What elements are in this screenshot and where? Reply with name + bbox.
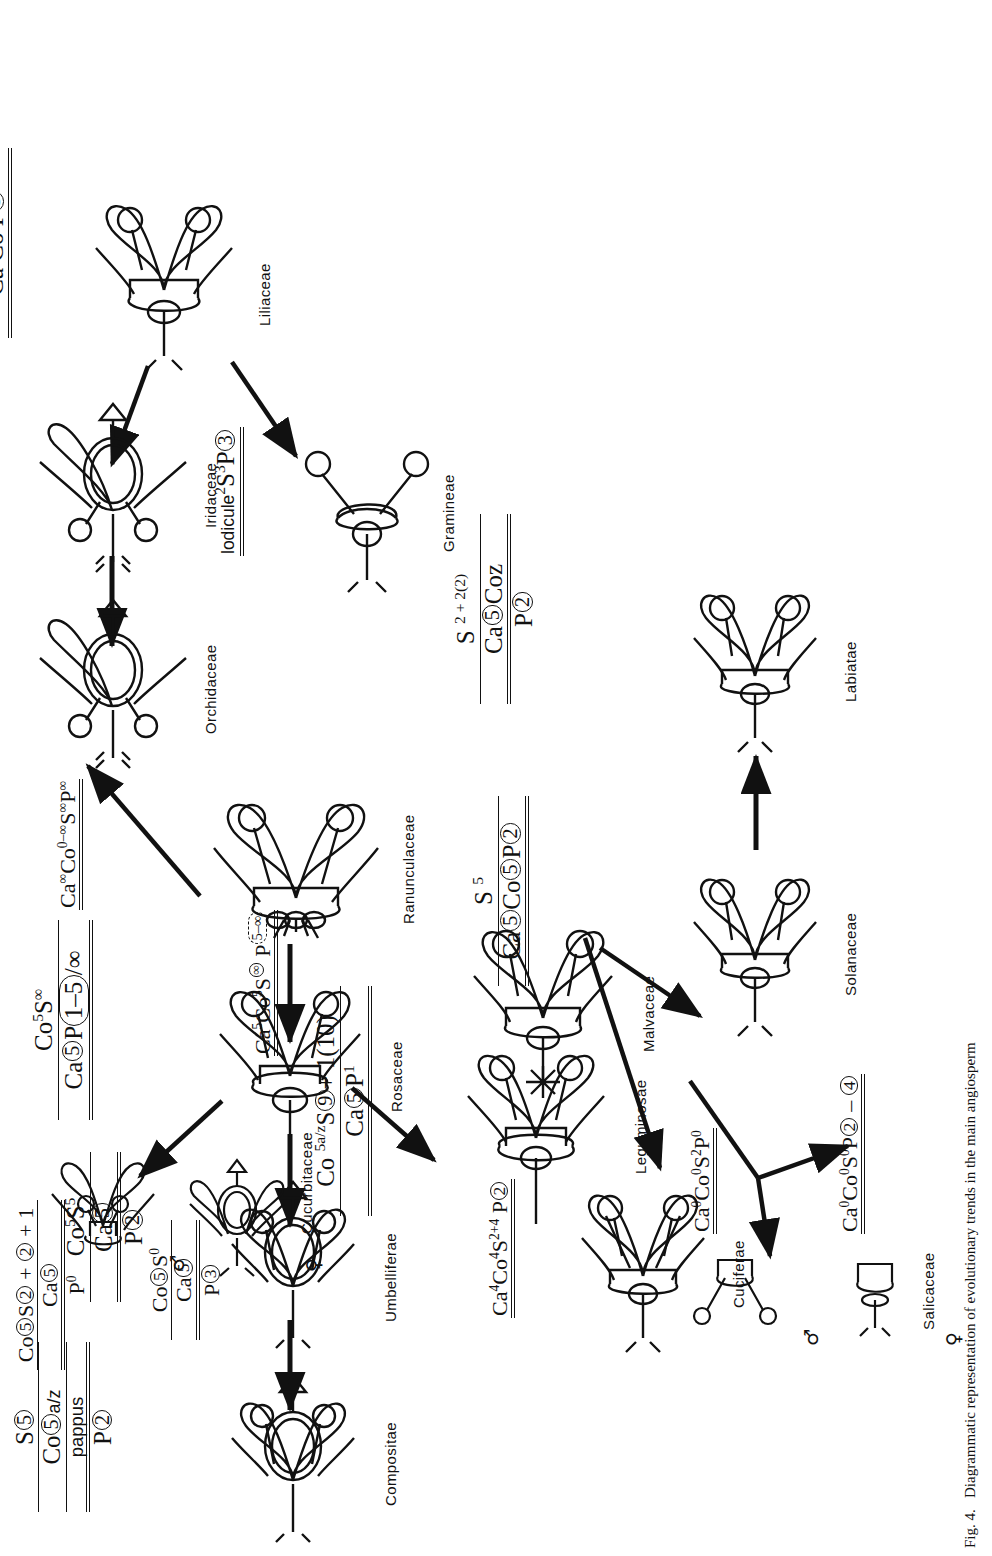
formula-line: Co5S2 + 2 + 1 [14,1200,38,1370]
male-symbol-salicaceae: ♂ [800,1329,822,1346]
formula-line: P3 [0,382,4,542]
node-salicaceae-female [820,1224,930,1334]
flower-diagram-orchidaceae [18,576,208,766]
family-label-labiatae: Labiatae [842,641,859,702]
formula-line: Ca∞Co0–∞S∞P∞ [56,779,83,910]
formula-leguminosae: Co 5a/zS9+ 1(10) Ca5P1 [312,986,372,1216]
node-labiatae: Labiatae [660,566,850,756]
family-label-cuciferae: Cuciferae [730,1240,747,1308]
flower-diagram-iridaceae [18,380,208,570]
formula-liliaceae: S 6(3) 3+ 3 Ca Co P3 [0,148,12,338]
figure-caption: Fig. 4. Diagrammatic representation of e… [962,1042,979,1548]
formula-line: Ca Co P3 [0,148,12,338]
node-iridaceae: Iridaceae [18,380,208,570]
formula-line: Co5S∞ [30,920,59,1120]
flower-diagram-gramineae [292,420,442,590]
formula-line: Ca0Co0S0P2 – 4 [838,1074,865,1234]
node-compositae: Compositae [198,1352,388,1542]
figure-caption-prefix: Fig. 4. [962,1509,978,1548]
formula-iridaceae: S3 3+ 3 Ca Co P3 [0,382,4,542]
female-symbol-cucurbitaceae: ♀ [302,1258,324,1272]
formula-line: Co5S0 [148,1220,172,1340]
flower-diagram-labiatae [660,566,850,756]
family-label-umbelliferae: Umbelliferae [382,1233,399,1322]
node-leguminosae: Leguminosae [436,1030,636,1230]
formula-line: P2 [511,514,537,704]
family-label-malvaceae: Malvaceae [640,976,657,1052]
node-ranunculaceae: Ranunculaceae [188,736,403,946]
formula-line: Ca5Coz [481,514,511,704]
female-symbol-salicaceae: ♀ [942,1332,964,1346]
family-label-gramineae: Gramineae [440,474,457,552]
formula-line: Ca5 [38,1200,65,1370]
formula-line: P3 [200,1220,223,1340]
arrow-ranunculaceae-liliaceae [88,766,200,896]
formula-cucurbitaceae-male: Co5S2 + 2 + 1 Ca5 P0 [14,1200,89,1370]
figure-plate: Labiatae S 2 + 2(2) Ca5Coz P2 Solana [0,0,992,1556]
formula-line: lodicule2S3P3 [212,427,244,556]
flower-diagram-liliaceae [66,182,261,372]
formula-ranunculaceae: Ca∞Co0–∞S∞P∞ [56,779,83,910]
node-solanaceae: Solanaceae [660,850,850,1040]
formula-line: Ca5P1–5/∞ [59,920,93,1120]
flower-diagram-compositae [198,1352,388,1542]
family-label-liliaceae: Liliaceae [256,263,273,326]
formula-rosaceae: Co5S∞ Ca5P1–5/∞ [30,920,93,1120]
arrow-malvaceae-solanaceae [758,1146,848,1178]
formula-line: P2 [90,1342,116,1512]
formula-line: Co 5a/zS9+ 1(10) [312,986,341,1216]
family-label-rosaceae: Rosaceae [388,1041,405,1112]
flower-diagram-solanaceae [660,850,850,1040]
family-label-ranunculaceae: Ranunculaceae [400,815,417,924]
node-gramineae: Gramineae [292,420,442,590]
flower-diagram-ranunculaceae [188,736,403,946]
formula-labiatae: S 2 + 2(2) Ca5Coz P2 [452,514,537,704]
formula-line: Ca5P1 [341,986,373,1216]
figure-caption-text: Diagrammatic representation of evolution… [962,1042,978,1498]
family-label-compositae: Compositae [382,1422,399,1506]
node-liliaceae: Liliaceae [66,182,261,372]
flower-diagram-salicaceae-female [820,1224,930,1334]
family-label-salicaceae: Salicaceae [920,1253,937,1330]
node-orchidaceae: Orchidaceae [18,576,208,766]
family-label-orchidaceae: Orchidaceae [202,645,219,734]
formula-line: P0 [65,1200,88,1370]
family-label-solanaceae: Solanaceae [842,913,859,996]
flower-diagram-leguminosae [436,1030,636,1230]
formula-line: Ca5 [172,1220,199,1340]
formula-salicaceae-female: Ca0Co0S0P2 – 4 [838,1074,865,1234]
formula-gramineae: lodicule2S3P3 [212,427,244,556]
family-label-leguminosae: Leguminosae [632,1080,649,1174]
formula-cucurbitaceae-female: Co5S0 Ca5 P3 [148,1220,223,1340]
